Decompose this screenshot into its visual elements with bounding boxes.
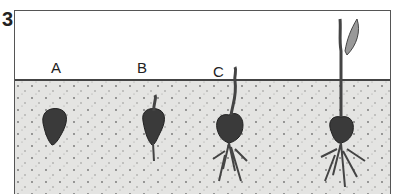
seedlings-drawing [15,11,392,195]
figure-number: 3 [2,8,13,31]
germination-illustration: A B C [14,10,391,194]
